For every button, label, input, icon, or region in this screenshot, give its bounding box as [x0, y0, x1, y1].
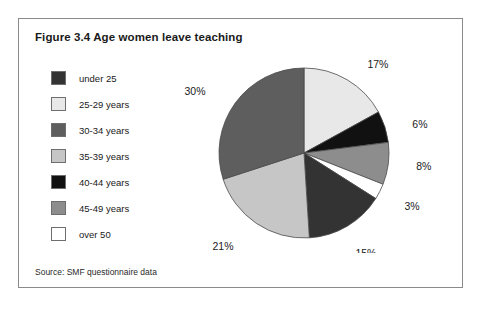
chart-legend: under 2525-29 years30-34 years35-39 year… — [51, 65, 181, 247]
figure-frame: Figure 3.4 Age women leave teaching unde… — [18, 18, 463, 288]
legend-item-label: 25-29 years — [79, 99, 129, 110]
pie-chart: 17%6%8%3%15%21%30% — [174, 53, 454, 253]
legend-item-label: 45-49 years — [79, 203, 129, 214]
pie-slice-percentage-label: 21% — [212, 240, 233, 252]
pie-slice-percentage-label: 15% — [355, 247, 376, 253]
legend-item: 30-34 years — [51, 117, 181, 143]
legend-swatch — [51, 123, 66, 137]
legend-item-label: 35-39 years — [79, 151, 129, 162]
legend-item: 35-39 years — [51, 143, 181, 169]
pie-slice-percentage-label: 8% — [416, 160, 431, 172]
legend-item-label: 30-34 years — [79, 125, 129, 136]
page-title: Figure 3.4 Age women leave teaching — [35, 31, 243, 43]
legend-swatch — [51, 201, 66, 215]
legend-item-label: over 50 — [79, 229, 111, 240]
legend-item: 25-29 years — [51, 91, 181, 117]
legend-swatch — [51, 97, 66, 111]
legend-item-label: under 25 — [79, 73, 117, 84]
pie-slice-percentage-label: 30% — [184, 85, 205, 97]
legend-swatch — [51, 227, 66, 241]
legend-item-label: 40-44 years — [79, 177, 129, 188]
legend-swatch — [51, 175, 66, 189]
legend-item: 45-49 years — [51, 195, 181, 221]
pie-chart-svg: 17%6%8%3%15%21%30% — [174, 53, 454, 253]
pie-slice-percentage-label: 17% — [367, 58, 388, 70]
legend-item: over 50 — [51, 221, 181, 247]
legend-item: under 25 — [51, 65, 181, 91]
legend-swatch — [51, 149, 66, 163]
source-note: Source: SMF questionnaire data — [35, 267, 157, 277]
pie-slice-percentage-label: 6% — [412, 118, 427, 130]
legend-swatch — [51, 71, 66, 85]
legend-item: 40-44 years — [51, 169, 181, 195]
pie-slice-percentage-label: 3% — [404, 200, 419, 212]
